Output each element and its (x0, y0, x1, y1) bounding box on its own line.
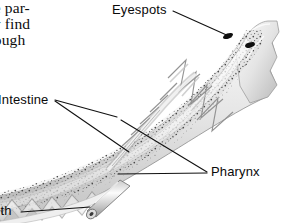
lancelet-anatomy-figure: ne par- ey find hough Eyespots Intestine… (0, 0, 283, 223)
label-mouth: uth (0, 203, 12, 218)
label-intestine: Intestine (0, 92, 49, 107)
leader-intestine-upper (55, 100, 117, 117)
body-line-2: ey find (0, 16, 76, 32)
body-paragraph: ne par- ey find hough (0, 0, 76, 49)
leader-intestine-lower (55, 101, 129, 152)
label-pharynx: Pharynx (211, 164, 260, 179)
leader-mouth (21, 207, 90, 212)
body-line-1: ne par- (0, 0, 76, 16)
label-eyespots: Eyespots (112, 2, 167, 17)
body-line-3: hough (0, 32, 76, 48)
leader-eyespots (173, 11, 231, 37)
leader-pharynx-lower (118, 173, 207, 174)
leader-pharynx-upper (121, 120, 207, 172)
